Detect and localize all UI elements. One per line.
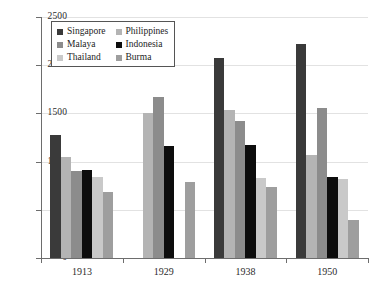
bar — [327, 177, 338, 258]
bar — [214, 58, 225, 258]
legend-swatch-icon — [116, 55, 122, 61]
bar — [164, 146, 175, 258]
x-tick — [123, 258, 124, 263]
x-tick — [368, 258, 369, 263]
bar — [185, 182, 196, 258]
legend-swatch-icon — [116, 29, 122, 35]
legend-entry: Malaya — [57, 39, 106, 50]
bar — [235, 121, 246, 258]
bar-group — [205, 17, 287, 258]
bar — [82, 170, 93, 258]
bar-chart: 05001000150020002500 1913192919381950 Si… — [0, 0, 385, 293]
bar — [338, 179, 349, 258]
legend-entry: Thailand — [57, 52, 106, 63]
legend-entry: Philippines — [116, 26, 169, 37]
bar — [71, 171, 82, 258]
legend-entry: Burma — [116, 52, 169, 63]
legend-swatch-icon — [57, 55, 63, 61]
bar — [50, 135, 61, 258]
bar — [153, 97, 164, 258]
bar — [245, 145, 256, 258]
x-tick — [286, 258, 287, 263]
bar — [61, 157, 72, 258]
legend-label: Burma — [126, 52, 152, 63]
bar — [256, 178, 267, 258]
legend-label: Philippines — [126, 26, 169, 37]
legend-label: Singapore — [67, 26, 106, 37]
legend-swatch-icon — [57, 29, 63, 35]
chart-legend: SingaporePhilippinesMalayaIndonesiaThail… — [51, 21, 175, 67]
bar — [296, 44, 307, 258]
legend-entry: Indonesia — [116, 39, 169, 50]
bar — [103, 192, 114, 258]
x-tick — [205, 258, 206, 263]
bar — [348, 220, 359, 258]
bar — [224, 110, 235, 258]
x-tick-label: 1950 — [292, 266, 362, 278]
bar-group — [286, 17, 368, 258]
legend-label: Thailand — [67, 52, 101, 63]
x-tick-label: 1938 — [210, 266, 280, 278]
x-tick-label: 1929 — [129, 266, 199, 278]
legend-label: Indonesia — [126, 39, 163, 50]
bar — [266, 187, 277, 258]
legend-entry: Singapore — [57, 26, 106, 37]
x-tick — [41, 258, 42, 263]
legend-swatch-icon — [116, 42, 122, 48]
x-tick-label: 1913 — [47, 266, 117, 278]
bar — [306, 155, 317, 258]
legend-label: Malaya — [67, 39, 96, 50]
bar — [92, 177, 103, 258]
bar — [143, 113, 154, 258]
legend-swatch-icon — [57, 42, 63, 48]
bar — [317, 108, 328, 258]
